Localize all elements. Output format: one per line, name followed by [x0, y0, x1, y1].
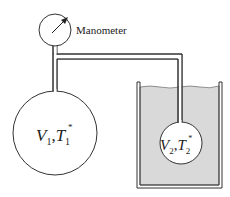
- diagram-canvas: Manometer V1,T1* V2,T2*: [0, 0, 230, 197]
- manometer-label: Manometer: [76, 24, 127, 36]
